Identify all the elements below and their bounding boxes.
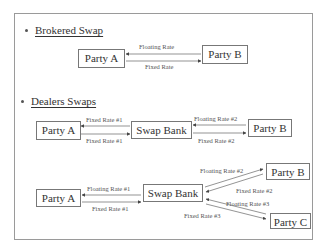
flow-label: Fixed Rate #2 <box>198 137 234 144</box>
flow-label: Fixed Rate #3 <box>184 212 220 219</box>
party-a-box: Party A <box>36 121 81 140</box>
swap-bank-box: Swap Bank <box>131 121 192 139</box>
flow-label: Floating Rate <box>139 43 174 50</box>
swap-bank-box: Swap Bank <box>143 184 203 202</box>
party-c-box: Party C <box>270 213 311 229</box>
party-b-box: Party B <box>202 45 248 64</box>
bullet-icon <box>21 100 24 103</box>
party-b-box: Party B <box>266 163 310 180</box>
flow-label: Fixed Rate #2 <box>236 187 272 194</box>
flow-label: Fixed Rate #1 <box>92 205 128 212</box>
flow-label: Floating Rate #3 <box>226 200 269 207</box>
flow-label: Floating Rate #1 <box>87 185 130 192</box>
dealers-swaps-heading: Dealers Swaps <box>21 95 96 107</box>
party-a-box: Party A <box>78 49 125 68</box>
party-a-box: Party A <box>36 189 81 207</box>
flow-label: Floating Rate #2 <box>194 115 237 122</box>
bullet-icon <box>25 29 28 32</box>
flow-label: Fixed Rate #1 <box>86 137 122 144</box>
party-b-box: Party B <box>248 119 292 137</box>
brokered-swap-heading: Brokered Swap <box>25 24 103 36</box>
flow-label: Floating Rate #2 <box>200 167 243 174</box>
flow-label: Fixed Rate #1 <box>86 116 122 123</box>
flow-label: Fixed Rate <box>145 63 173 70</box>
